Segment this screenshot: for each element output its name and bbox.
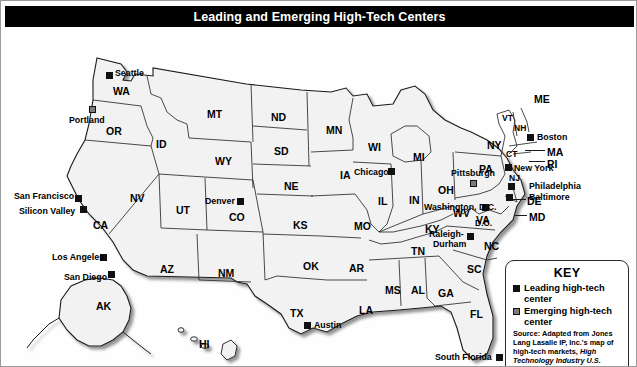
- marker-san-francisco[interactable]: [75, 195, 82, 202]
- us-map: WA OR ID MT ND SD NE WY NV UT CA CO AZ N…: [1, 28, 637, 367]
- marker-washington-dc[interactable]: [482, 204, 489, 211]
- legend-label-leading: Leading high-tech center: [524, 283, 621, 304]
- leader-line-de: [513, 199, 526, 200]
- marker-philadelphia[interactable]: [508, 183, 515, 190]
- legend-item-emerging: Emerging high-tech center: [513, 306, 621, 327]
- marker-raleigh-durham[interactable]: [467, 233, 474, 240]
- marker-san-diego[interactable]: [108, 271, 115, 278]
- marker-denver[interactable]: [237, 198, 244, 205]
- marker-boston[interactable]: [527, 134, 534, 141]
- marker-austin[interactable]: [304, 322, 311, 329]
- marker-new-york[interactable]: [505, 164, 512, 171]
- legend-swatch-leading-icon: [513, 285, 520, 292]
- legend-source-prefix: Source: Adapted from Jones Lang Lasalle …: [513, 329, 614, 356]
- marker-silicon-valley[interactable]: [80, 206, 87, 213]
- legend-label-emerging: Emerging high-tech center: [524, 306, 621, 327]
- page-title: Leading and Emerging High-Tech Centers: [193, 10, 445, 24]
- marker-portland[interactable]: [89, 106, 96, 113]
- map-legend: KEY Leading high-tech center Emerging hi…: [505, 260, 629, 367]
- marker-seattle[interactable]: [106, 72, 113, 79]
- figure-title-bar: Leading and Emerging High-Tech Centers: [5, 6, 634, 27]
- marker-baltimore[interactable]: [506, 194, 513, 201]
- legend-swatch-emerging-icon: [513, 308, 520, 315]
- marker-chicago[interactable]: [388, 168, 395, 175]
- map-figure: Leading and Emerging High-Tech Centers: [0, 0, 637, 367]
- marker-los-angeles[interactable]: [100, 254, 107, 261]
- leader-line-ma: [525, 150, 545, 151]
- marker-pittsburgh[interactable]: [470, 180, 477, 187]
- legend-title: KEY: [513, 266, 621, 280]
- legend-item-leading: Leading high-tech center: [513, 283, 621, 304]
- leader-line-md: [515, 215, 527, 216]
- leader-line-ri: [529, 161, 545, 162]
- legend-source: Source: Adapted from Jones Lang Lasalle …: [513, 330, 621, 367]
- marker-south-florida[interactable]: [496, 354, 503, 361]
